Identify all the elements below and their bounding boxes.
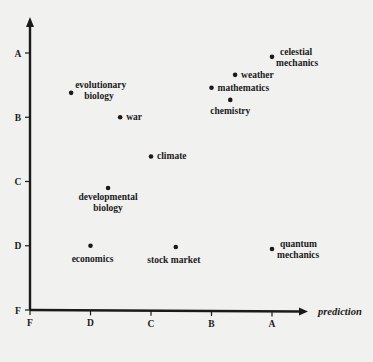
y-tick-label: C xyxy=(15,177,22,187)
x-axis-label: prediction xyxy=(317,306,362,317)
point-label: war xyxy=(126,112,143,122)
y-axis-arrow-icon xyxy=(26,17,34,27)
x-tick-label: D xyxy=(87,318,94,328)
data-points: celestialmechanicsweathermathematicschem… xyxy=(69,47,320,265)
data-point: celestialmechanics xyxy=(270,47,319,68)
data-point: evolutionarybiology xyxy=(69,80,127,101)
data-point: war xyxy=(118,112,143,122)
point-marker-icon xyxy=(209,85,214,90)
data-point: stock market xyxy=(147,245,201,265)
point-marker-icon xyxy=(174,245,179,250)
point-label: stock market xyxy=(147,255,201,265)
point-marker-icon xyxy=(228,98,233,103)
x-tick-label: C xyxy=(148,319,155,329)
y-tick-label: A xyxy=(15,49,22,59)
point-label: mechanics xyxy=(276,58,319,68)
point-label: developmental xyxy=(78,192,137,202)
point-label: mathematics xyxy=(218,83,270,93)
data-point: economics xyxy=(72,243,114,263)
point-label: quantum xyxy=(280,239,317,249)
point-marker-icon xyxy=(118,115,123,120)
point-label: mechanics xyxy=(277,250,320,260)
data-point: developmentalbiology xyxy=(78,186,137,213)
point-label: climate xyxy=(157,151,187,161)
x-tick-label: A xyxy=(269,319,276,329)
point-label: biology xyxy=(84,91,114,101)
x-axis-line xyxy=(30,310,300,312)
y-tick-label: B xyxy=(15,113,22,123)
data-point: climate xyxy=(149,151,187,161)
point-marker-icon xyxy=(69,91,74,96)
point-label: economics xyxy=(72,254,114,264)
y-tick-label: D xyxy=(15,241,22,251)
point-marker-icon xyxy=(270,55,275,60)
scatter-chart: predictionFDCBAFDCBA celestialmechanicsw… xyxy=(0,0,373,362)
point-label: biology xyxy=(93,203,123,213)
x-tick-label: F xyxy=(27,318,33,328)
x-axis-arrow-icon xyxy=(299,308,308,316)
point-marker-icon xyxy=(233,73,238,78)
data-point: chemistry xyxy=(210,98,250,116)
y-tick-label: F xyxy=(15,306,21,316)
data-point: quantummechanics xyxy=(270,239,320,260)
point-marker-icon xyxy=(270,247,275,252)
point-marker-icon xyxy=(106,186,111,191)
x-tick-label: B xyxy=(208,319,215,329)
point-label: weather xyxy=(241,70,274,80)
point-label: evolutionary xyxy=(75,80,126,90)
point-label: celestial xyxy=(280,47,313,57)
point-label: chemistry xyxy=(210,106,250,116)
data-point: mathematics xyxy=(209,83,269,93)
data-point: weather xyxy=(233,70,275,80)
point-marker-icon xyxy=(149,154,154,159)
point-marker-icon xyxy=(88,243,93,248)
